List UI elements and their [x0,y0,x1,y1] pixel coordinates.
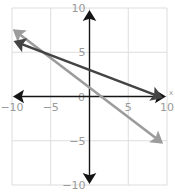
x-axis-label: x [169,89,173,97]
y-tick-label: 5 [79,46,86,59]
coordinate-plane-chart: −10−55100105−5−10 x [0,0,175,194]
x-tick-label: −10 [0,101,23,114]
x-tick-label: −5 [43,101,59,114]
data-lines [13,29,163,143]
x-tick-label: 5 [125,101,132,114]
y-tick-label: −10 [62,179,85,192]
line-light-end-arrow-icon [149,130,163,143]
y-tick-label: 10 [72,2,86,15]
axes [13,10,166,184]
x-tick-label: 10 [160,101,174,114]
y-tick-label: −5 [69,135,85,148]
